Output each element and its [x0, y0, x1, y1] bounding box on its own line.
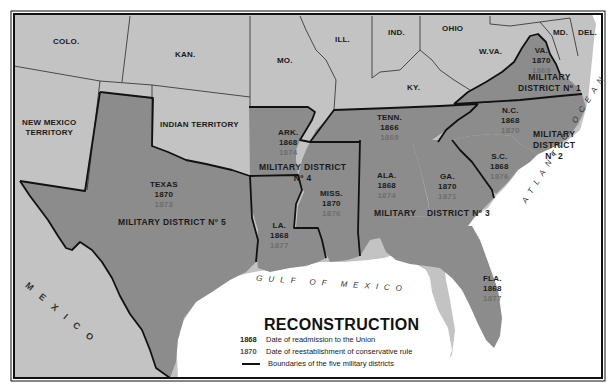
conservative-rule-year: 1870 — [501, 126, 520, 136]
readmission-year: 1868 — [278, 138, 298, 148]
label-ill: ILL. — [335, 35, 350, 45]
state-name: GA. — [440, 172, 455, 181]
readmission-year: 1870 — [320, 199, 343, 209]
district-1-line1: MILITARY — [518, 72, 581, 83]
label-district-1: MILITARY DISTRICT Nº 1 — [518, 72, 581, 94]
conservative-rule-year: 1869 — [377, 133, 402, 143]
boundary-line-icon — [242, 363, 260, 365]
state-name: MISS. — [320, 189, 343, 198]
label-state-mississippi: MISS. 1870 1876 — [320, 189, 343, 219]
readmission-year: 1868 — [490, 162, 509, 172]
label-district-3b: DISTRICT Nº 3 — [427, 208, 490, 219]
conservative-rule-year: 1877 — [270, 241, 289, 251]
label-state-tennessee: TENN. 1866 1869 — [377, 113, 402, 143]
label-del: DEL. — [578, 28, 597, 38]
state-name: FLA. — [483, 274, 502, 283]
legend-text-boundary: Boundaries of the five military district… — [268, 358, 394, 370]
state-name: TEXAS — [150, 180, 178, 189]
conservative-rule-year: 1876 — [320, 209, 343, 219]
label-ky: KY. — [407, 83, 420, 93]
conservative-rule-year: 1876 — [490, 172, 509, 182]
label-mo: MO. — [277, 56, 293, 66]
conservative-rule-year: 1873 — [150, 200, 178, 210]
state-name: S.C. — [491, 152, 507, 161]
legend-item-readmission: 1868 Date of readmission to the Union — [240, 334, 419, 346]
legend-key-readmission: 1868 — [240, 334, 266, 346]
readmission-year: 1868 — [377, 181, 396, 191]
readmission-year: 1870 — [532, 56, 551, 66]
legend-item-boundary: Boundaries of the five military district… — [240, 358, 419, 370]
readmission-year: 1868 — [270, 231, 289, 241]
legend-text-conservative: Date of reestablishment of conservative … — [266, 346, 412, 358]
legend-title: RECONSTRUCTION — [264, 316, 419, 334]
district-4-line1: MILITARY DISTRICT — [259, 162, 346, 173]
conservative-rule-year: 1871 — [438, 192, 457, 202]
state-name: ARK. — [278, 128, 298, 137]
state-name: TENN. — [377, 113, 402, 122]
readmission-year: 1870 — [150, 190, 178, 200]
district-1-line2: DISTRICT Nº 1 — [518, 83, 581, 94]
label-wva: W.VA. — [479, 47, 502, 57]
conservative-rule-year: 1874 — [278, 148, 298, 158]
readmission-year: 1870 — [438, 182, 457, 192]
readmission-year: 1868 — [483, 284, 502, 294]
legend-item-conservative: 1870 Date of reestablishment of conserva… — [240, 346, 419, 358]
state-name: ALA. — [377, 171, 396, 180]
readmission-year: 1868 — [501, 116, 520, 126]
label-ind: IND. — [388, 28, 405, 38]
label-new-mexico: NEW MEXICO TERRITORY — [22, 118, 76, 138]
label-state-arkansas: ARK. 1868 1874 — [278, 128, 298, 158]
state-name: VA. — [535, 46, 548, 55]
label-state-texas: TEXAS 1870 1873 — [150, 180, 178, 210]
label-state-florida: FLA. 1868 1877 — [483, 274, 502, 304]
readmission-year: 1866 — [377, 123, 402, 133]
label-kan: KAN. — [175, 50, 195, 60]
label-indian-territory: INDIAN TERRITORY — [160, 120, 239, 130]
label-state-louisiana: LA. 1868 1877 — [270, 221, 289, 251]
label-state-north-carolina: N.C. 1868 1870 — [501, 106, 520, 136]
legend: RECONSTRUCTION 1868 Date of readmission … — [240, 316, 419, 370]
label-md: MD. — [553, 28, 568, 38]
district-4-line2: Nº 4 — [259, 173, 346, 184]
label-state-alabama: ALA. 1868 1874 — [377, 171, 396, 201]
state-name: N.C. — [502, 106, 519, 115]
legend-text-readmission: Date of readmission to the Union — [266, 334, 375, 346]
label-ohio: OHIO — [442, 24, 463, 34]
label-district-4: MILITARY DISTRICT Nº 4 — [259, 162, 346, 184]
legend-key-conservative: 1870 — [240, 346, 266, 358]
conservative-rule-year: 1877 — [483, 294, 502, 304]
label-district-3a: MILITARY — [374, 208, 416, 219]
conservative-rule-year: 1874 — [377, 191, 396, 201]
label-state-south-carolina: S.C. 1868 1876 — [490, 152, 509, 182]
label-state-georgia: GA. 1870 1871 — [438, 172, 457, 202]
label-district-5: MILITARY DISTRICT Nº 5 — [118, 217, 226, 228]
label-new-mexico-line1: NEW MEXICO — [22, 118, 76, 128]
state-name: LA. — [273, 221, 287, 230]
label-colo: COLO. — [53, 37, 79, 47]
label-new-mexico-line2: TERRITORY — [22, 128, 76, 138]
